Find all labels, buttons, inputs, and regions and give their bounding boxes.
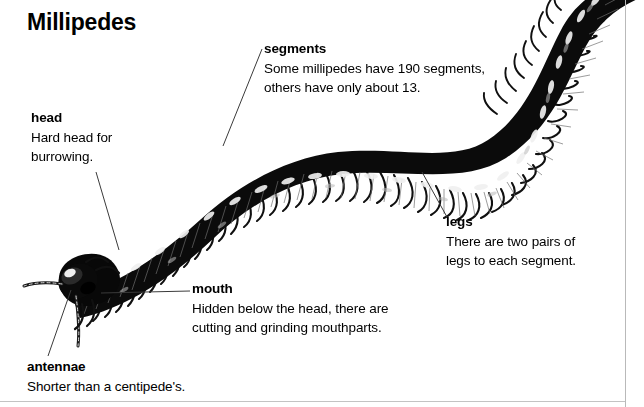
page-title: Millipedes	[27, 9, 136, 36]
millipede-diagram-page: Millipedes segments Some millipedes have…	[0, 0, 644, 407]
callout-head-term: head	[31, 110, 171, 127]
right-divider-rule	[625, 0, 626, 407]
callout-head: head Hard head for burrowing.	[31, 110, 171, 167]
callout-mouth-term: mouth	[192, 281, 472, 298]
leader-antennae	[48, 290, 71, 356]
callout-legs: legs There are two pairs of legs to each…	[446, 214, 626, 271]
callout-mouth-body: Hidden below the head, there are cutting…	[192, 299, 472, 338]
callout-legs-term: legs	[446, 214, 626, 231]
callout-antennae: antennae Shorter than a centipede's.	[27, 359, 277, 396]
callout-head-body: Hard head for burrowing.	[31, 128, 171, 167]
callout-antennae-term: antennae	[27, 359, 277, 376]
millipede-antennae	[24, 283, 79, 346]
callout-legs-body: There are two pairs of legs to each segm…	[446, 232, 626, 271]
callout-mouth: mouth Hidden below the head, there are c…	[192, 281, 472, 338]
leader-mouth	[101, 291, 190, 293]
callout-segments-term: segments	[264, 41, 514, 58]
callout-segments-body: Some millipedes have 190 segments, other…	[264, 59, 514, 98]
leader-segments	[223, 49, 262, 146]
leader-head	[96, 172, 119, 250]
callout-antennae-body: Shorter than a centipede's.	[27, 377, 277, 397]
callout-segments: segments Some millipedes have 190 segmen…	[264, 41, 514, 98]
leader-legs	[422, 172, 447, 217]
bottom-divider-rule	[0, 401, 625, 402]
millipede-head	[53, 254, 120, 306]
